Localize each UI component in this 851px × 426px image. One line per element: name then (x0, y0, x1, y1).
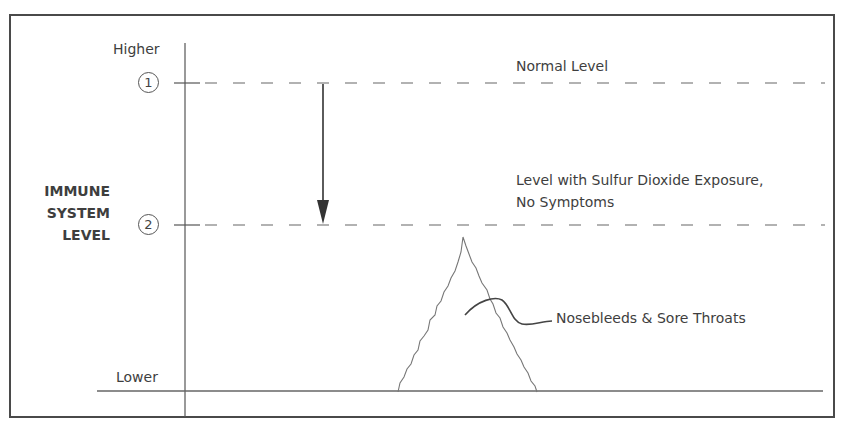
exposure-level-label-line-1: Level with Sulfur Dioxide Exposure, (516, 172, 763, 188)
symptom-peak (398, 237, 537, 392)
axis-bottom-label: Lower (116, 369, 158, 385)
marker-2-badge: 2 (138, 214, 159, 235)
axis-top-label: Higher (113, 41, 160, 57)
y-axis-title-line-2: SYSTEM (20, 202, 110, 224)
symptoms-label: Nosebleeds & Sore Throats (556, 310, 746, 326)
decrease-arrow-head (317, 200, 329, 224)
diagram-canvas (0, 0, 851, 426)
annotation-leader (465, 299, 552, 325)
exposure-level-label-line-2: No Symptoms (516, 194, 614, 210)
marker-1-badge: 1 (138, 72, 159, 93)
normal-level-label: Normal Level (516, 58, 608, 74)
frame-border (10, 15, 834, 417)
y-axis-title: IMMUNE SYSTEM LEVEL (20, 180, 110, 246)
y-axis-title-line-3: LEVEL (20, 224, 110, 246)
y-axis-title-line-1: IMMUNE (20, 180, 110, 202)
